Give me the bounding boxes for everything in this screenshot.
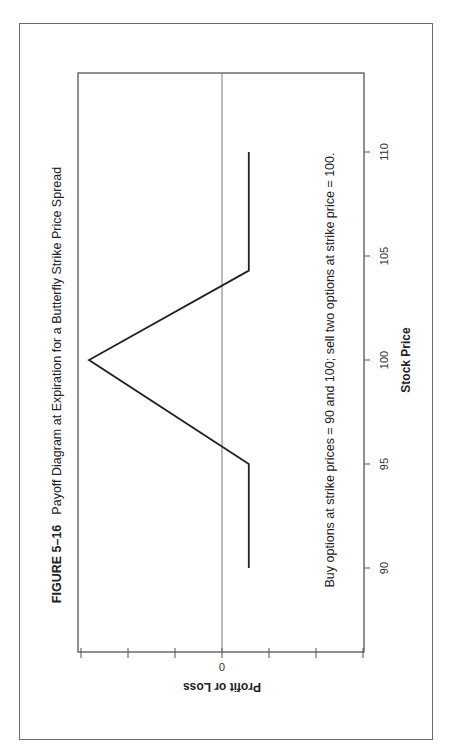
figure-title-text: Payoff Diagram at Expiration for a Butte… bbox=[50, 167, 64, 515]
stock-price-axis-title: Stock Price bbox=[399, 327, 413, 392]
strategy-annotation: Buy options at strike prices = 90 and 10… bbox=[323, 153, 337, 588]
tick-label-90: 90 bbox=[378, 562, 390, 574]
figure-number: FIGURE 5–16 bbox=[50, 525, 64, 604]
tick-label-110: 110 bbox=[378, 143, 390, 161]
tick-label-105: 105 bbox=[378, 247, 390, 265]
tick-label-100: 100 bbox=[378, 351, 390, 369]
chart-plot bbox=[0, 0, 453, 755]
payoff-line bbox=[89, 152, 249, 568]
tick-label-95: 95 bbox=[378, 458, 390, 470]
plot-area-border bbox=[78, 73, 364, 652]
profit-axis-ticks bbox=[81, 648, 363, 658]
profit-zero-label: 0 bbox=[219, 661, 225, 673]
figure-title: FIGURE 5–16Payoff Diagram at Expiration … bbox=[50, 167, 64, 603]
stock-price-axis-ticks bbox=[364, 152, 370, 568]
profit-axis-title: Profit or Loss bbox=[183, 680, 261, 694]
